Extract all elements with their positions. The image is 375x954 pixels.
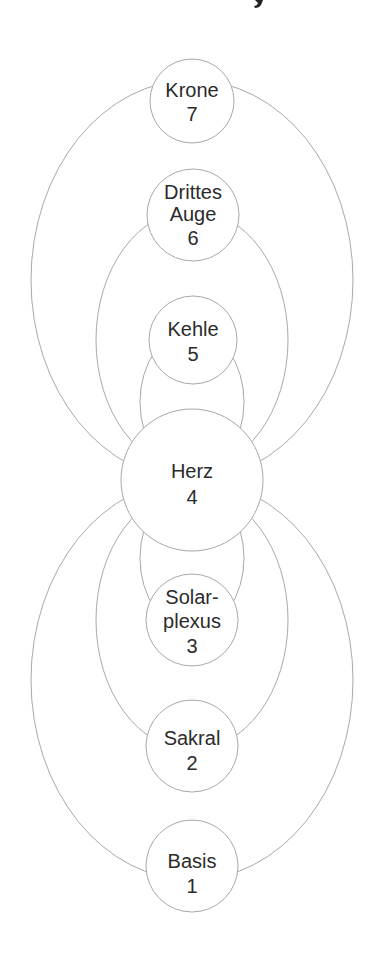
node-number: 2	[186, 752, 197, 774]
node-drittes-auge: Drittes Auge 6	[147, 169, 239, 261]
node-circle	[149, 296, 237, 384]
node-label: Drittes	[164, 181, 222, 203]
title-glyph-fragment	[254, 0, 263, 8]
node-number: 5	[187, 343, 198, 365]
node-herz: Herz 4	[121, 409, 263, 551]
node-circle	[150, 59, 234, 143]
node-krone: Krone 7	[150, 59, 234, 143]
node-label: Krone	[165, 79, 218, 101]
node-label: Sakral	[164, 727, 221, 749]
node-number: 3	[186, 635, 197, 657]
node-number: 7	[186, 103, 197, 125]
node-basis: Basis 1	[146, 820, 238, 912]
node-label: plexus	[163, 610, 221, 632]
node-solarplexus: Solar- plexus 3	[146, 574, 238, 666]
node-label: Auge	[170, 203, 217, 225]
node-number: 4	[186, 486, 197, 508]
node-number: 6	[187, 227, 198, 249]
chakra-diagram: Krone 7 Drittes Auge 6 Kehle 5 Herz 4 So…	[0, 0, 375, 954]
node-sakral: Sakral 2	[146, 700, 238, 792]
node-label: Basis	[168, 850, 217, 872]
node-label: Herz	[171, 460, 213, 482]
node-label: Solar-	[165, 586, 218, 608]
node-label: Kehle	[167, 318, 218, 340]
node-kehle: Kehle 5	[149, 296, 237, 384]
node-number: 1	[186, 875, 197, 897]
